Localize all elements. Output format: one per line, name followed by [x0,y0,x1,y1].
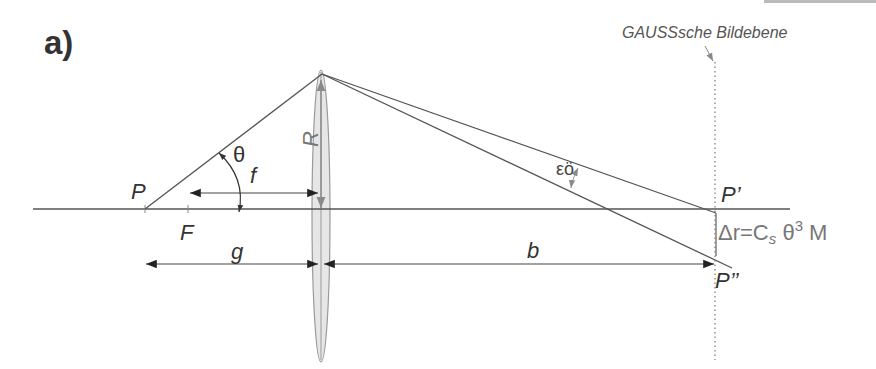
delta-r-equation: Δr=Cs θ3 M [718,218,827,246]
eq-theta: θ [776,220,794,245]
label-P-prime: P’ [721,184,741,206]
spherical-aberration-diagram: a) GAUSSsche Bildebene P F θ f R g b P’ … [0,0,876,369]
label-P-double-prime: P’’ [715,270,739,292]
label-g: g [231,241,243,263]
label-F: F [180,222,193,244]
label-f: f [250,165,256,187]
label-theta: θ [233,144,245,166]
paraxial-ray [322,74,716,213]
eq-superscript: 3 [795,217,803,234]
label-P: P [131,181,146,203]
label-R: R [300,131,322,147]
label-b: b [527,240,539,262]
plane-pointer-arrow [705,46,713,61]
panel-label: a) [44,26,73,59]
eq-suffix: M [803,220,827,245]
label-epsilon: εö [556,160,574,178]
eq-prefix: Δr=C [718,220,769,245]
image-plane-label: GAUSSsche Bildebene [622,25,787,41]
